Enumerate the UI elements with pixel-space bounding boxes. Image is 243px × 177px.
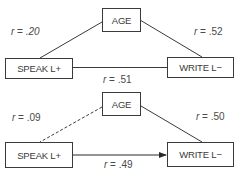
r-value: .49: [119, 159, 133, 170]
r-value: .50: [211, 111, 225, 122]
dashed-line-age-speak-2: [40, 107, 102, 142]
label-r-speak-write: r = .51: [103, 74, 132, 85]
equals-sign: =: [197, 26, 208, 37]
r-value: .09: [27, 112, 41, 123]
label-r-age-write: r = .52: [194, 26, 223, 37]
label-r-age-speak: r = .20: [11, 26, 40, 37]
label-r-speak-write: r = .49: [104, 159, 133, 170]
equals-sign: =: [106, 74, 117, 85]
equals-sign: =: [199, 111, 210, 122]
equals-sign: =: [15, 112, 26, 123]
r-value: .51: [118, 74, 132, 85]
label-r-age-speak: r = .09: [12, 112, 41, 123]
node-write: WRITE L−: [167, 57, 234, 78]
line-age-speak-1: [40, 22, 102, 58]
equals-sign: =: [14, 26, 25, 37]
node-age: AGE: [102, 8, 141, 32]
line-age-write-2: [141, 106, 202, 142]
node-write: WRITE L−: [167, 142, 234, 167]
r-value: .52: [209, 26, 223, 37]
r-value: .20: [26, 26, 40, 37]
node-speak: SPEAK L+: [5, 58, 73, 79]
node-speak: SPEAK L+: [5, 142, 73, 168]
label-r-age-write: r = .50: [196, 111, 225, 122]
line-age-write-1: [140, 20, 202, 57]
equals-sign: =: [107, 159, 118, 170]
node-age: AGE: [102, 92, 141, 116]
